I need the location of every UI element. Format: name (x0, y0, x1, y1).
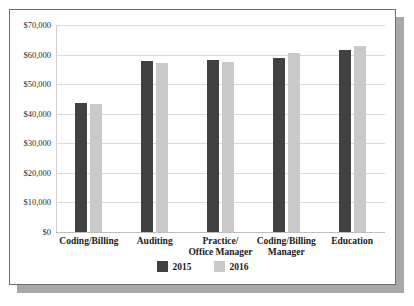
bar-2016[interactable] (90, 104, 102, 232)
bar-group: Coding/BillingManager (253, 25, 319, 232)
x-axis-category-label-line: Coding/Billing (59, 236, 118, 247)
chart-frame: $70,000$60,000$50,000$40,000$30,000$20,0… (9, 9, 396, 285)
x-axis-category-label: Practice/Office Manager (188, 236, 252, 258)
y-axis-tick-label: $10,000 (23, 197, 51, 207)
plot-area: $70,000$60,000$50,000$40,000$30,000$20,0… (56, 25, 385, 232)
x-axis-category-label: Auditing (137, 236, 173, 247)
bar-2016[interactable] (354, 46, 366, 232)
x-axis-category-label: Education (331, 236, 373, 247)
y-axis-tick-label: $50,000 (23, 79, 51, 89)
gridline (56, 232, 385, 233)
bar-2016[interactable] (156, 63, 168, 232)
bar-group: Coding/Billing (56, 25, 122, 232)
legend-item[interactable]: 2016 (214, 261, 249, 272)
y-axis-tick-label: $60,000 (23, 50, 51, 60)
bar-2015[interactable] (75, 103, 87, 232)
y-axis-tick-label: $0 (43, 227, 52, 237)
bar-2015[interactable] (141, 61, 153, 232)
y-axis-tick-label: $70,000 (23, 20, 51, 30)
y-axis-tick-label: $40,000 (23, 109, 51, 119)
x-axis-category-label-line: Office Manager (188, 247, 252, 258)
x-axis-category-label-line: Practice/ (188, 236, 252, 247)
legend-swatch-icon (157, 261, 168, 272)
salary-bar-chart-figure: $70,000$60,000$50,000$40,000$30,000$20,0… (0, 0, 414, 306)
legend-label: 2015 (173, 262, 192, 272)
chart-legend: 20152016 (10, 261, 395, 272)
x-axis-category-label-line: Auditing (137, 236, 173, 247)
bar-2015[interactable] (339, 50, 351, 232)
legend-swatch-icon (214, 261, 225, 272)
bar-group: Education (319, 25, 385, 232)
x-axis-category-label-line: Education (331, 236, 373, 247)
y-axis-tick-label: $20,000 (23, 168, 51, 178)
legend-item[interactable]: 2015 (157, 261, 192, 272)
y-axis-tick-label: $30,000 (23, 138, 51, 148)
bar-group: Auditing (122, 25, 188, 232)
x-axis-category-label-line: Coding/Billing (257, 236, 316, 247)
bar-group: Practice/Office Manager (188, 25, 254, 232)
bar-2015[interactable] (207, 60, 219, 232)
x-axis-category-label: Coding/Billing (59, 236, 118, 247)
x-axis-category-label-line: Manager (257, 247, 316, 258)
legend-label: 2016 (230, 262, 249, 272)
bar-2016[interactable] (222, 62, 234, 232)
x-axis-category-label: Coding/BillingManager (257, 236, 316, 258)
bar-2015[interactable] (273, 58, 285, 232)
bar-2016[interactable] (288, 53, 300, 232)
